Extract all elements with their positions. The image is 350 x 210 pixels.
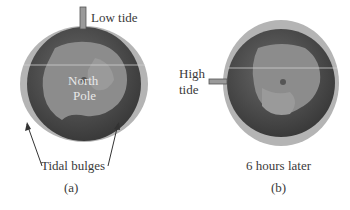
high-label: High [179, 66, 205, 82]
bulge-arrow-left [27, 124, 42, 166]
tide-label: tide [179, 82, 199, 98]
north-pole-dot-b [280, 79, 286, 85]
six-hours-later-label: 6 hours later [246, 158, 311, 174]
low-tide-marker [80, 7, 86, 29]
low-tide-label: Low tide [91, 10, 138, 26]
tide-diagram [0, 0, 350, 210]
caption-b: (b) [271, 180, 286, 196]
caption-a: (a) [64, 180, 78, 196]
pole-label: Pole [73, 88, 96, 104]
globe-b [209, 20, 339, 146]
tidal-bulges-label: Tidal bulges [41, 158, 105, 174]
north-label: North [68, 73, 98, 89]
high-tide-marker [209, 79, 227, 84]
